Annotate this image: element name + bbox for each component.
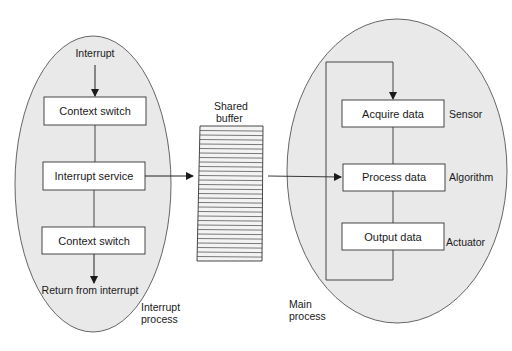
shared-buffer [197,126,263,261]
context-switch-1-label: Context switch [59,105,131,117]
interrupt-service-label: Interrupt service [55,170,134,182]
shared-buffer-label-1: Shared [214,100,248,112]
process-data-label: Process data [362,171,427,183]
interrupt-process-label-1: Interrupt [141,301,180,313]
output-data-label: Output data [364,231,422,243]
sensor-annotation: Sensor [449,108,483,120]
interrupt-entry-label: Interrupt [75,47,114,59]
main-process-label-1: Main [289,298,312,310]
interrupt-process-label-2: process [141,313,178,325]
acquire-data-label: Acquire data [362,108,425,120]
return-from-interrupt-label: Return from interrupt [42,284,139,296]
main-process-label-2: process [289,310,326,322]
actuator-annotation: Actuator [446,236,486,248]
diagram-canvas: Interrupt Context switch Interrupt servi… [0,0,512,351]
algorithm-annotation: Algorithm [449,171,494,183]
shared-buffer-label-2: buffer [216,112,243,124]
context-switch-2-label: Context switch [58,235,130,247]
